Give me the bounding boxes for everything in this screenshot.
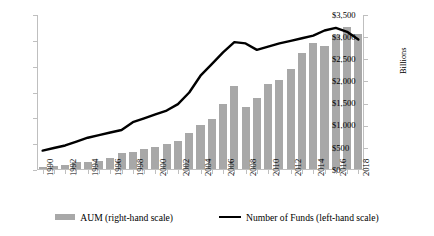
x-tick <box>223 170 224 174</box>
x-axis-tick-label: 2010 <box>272 159 281 176</box>
x-axis-tick-label: 2008 <box>249 159 258 176</box>
x-axis-tick-label: 2006 <box>227 159 236 176</box>
x-axis-tick-label: 2000 <box>159 159 168 176</box>
chart-legend: AUM (right-hand scale) Number of Funds (… <box>0 207 434 227</box>
right-axis-tick-label: $1,000 <box>332 121 366 130</box>
line-swatch-icon <box>219 216 241 218</box>
right-axis-tick-label: $2,500 <box>332 55 366 64</box>
x-tick <box>133 170 134 174</box>
x-axis-tick-label: 1990 <box>46 159 55 176</box>
funds-polyline <box>43 28 359 151</box>
x-axis-tick-label: 2016 <box>339 159 348 176</box>
x-tick <box>291 170 292 174</box>
x-axis-tick-label: 1998 <box>136 159 145 176</box>
x-axis-tick-label: 1992 <box>69 159 78 176</box>
plot-area <box>37 15 364 170</box>
x-tick <box>268 170 269 174</box>
right-axis-tick-label: $2,000 <box>332 77 366 86</box>
x-tick <box>201 170 202 174</box>
x-tick <box>65 170 66 174</box>
x-tick <box>110 170 111 174</box>
legend-item-number-of-funds: Number of Funds (left-hand scale) <box>219 212 379 223</box>
legend-label-aum: AUM (right-hand scale) <box>80 212 173 223</box>
chart-container: 02,0004,0006,0008,00010,00012,000 $0$500… <box>0 0 434 236</box>
right-axis-tick-label: $500 <box>332 144 366 153</box>
x-axis-tick-label: 1994 <box>91 159 100 176</box>
legend-label-number-of-funds: Number of Funds (left-hand scale) <box>246 212 379 223</box>
right-axis-tick-label: $3,500 <box>332 11 366 20</box>
x-tick <box>246 170 247 174</box>
x-tick <box>88 170 89 174</box>
x-tick <box>155 170 156 174</box>
x-axis-tick-label: 2002 <box>182 159 191 176</box>
x-axis-tick-label: 2018 <box>362 159 371 176</box>
bar-swatch-icon <box>55 214 75 220</box>
x-axis-tick-label: 2014 <box>317 159 326 176</box>
line-series-number-of-funds <box>37 15 364 170</box>
x-axis-tick-label: 2012 <box>294 159 303 176</box>
x-axis-tick-label: 2004 <box>204 159 213 176</box>
legend-item-aum: AUM (right-hand scale) <box>55 212 173 223</box>
x-tick <box>178 170 179 174</box>
left-tick <box>33 170 37 171</box>
right-axis-tick-label: $1,500 <box>332 99 366 108</box>
right-axis-tick-label: $3,000 <box>332 33 366 42</box>
right-axis-title: Billions <box>399 47 408 74</box>
x-tick <box>43 170 44 174</box>
x-tick <box>313 170 314 174</box>
x-axis-tick-label: 1996 <box>114 159 123 176</box>
